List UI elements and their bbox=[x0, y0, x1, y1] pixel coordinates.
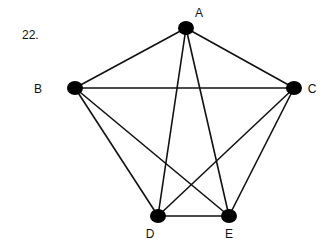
problem-number: 22. bbox=[22, 28, 39, 42]
edge-c-d bbox=[158, 88, 294, 216]
graph-nodes bbox=[67, 21, 302, 223]
graph-diagram: 22. ABCDE bbox=[0, 0, 328, 245]
node-e bbox=[221, 209, 237, 223]
edge-a-b bbox=[75, 28, 186, 88]
node-label-e: E bbox=[225, 227, 233, 241]
node-b bbox=[67, 81, 83, 95]
edge-a-c bbox=[186, 28, 294, 88]
node-label-b: B bbox=[34, 82, 42, 96]
node-c bbox=[286, 81, 302, 95]
edge-a-e bbox=[186, 28, 229, 216]
node-label-a: A bbox=[195, 6, 203, 20]
edge-b-e bbox=[75, 88, 229, 216]
node-a bbox=[178, 21, 194, 35]
node-label-d: D bbox=[146, 227, 155, 241]
edge-c-e bbox=[229, 88, 294, 216]
graph-node-labels: ABCDE bbox=[34, 6, 317, 241]
graph-edges bbox=[75, 28, 294, 216]
edge-a-d bbox=[158, 28, 186, 216]
node-label-c: C bbox=[308, 82, 317, 96]
node-d bbox=[150, 209, 166, 223]
edge-b-d bbox=[75, 88, 158, 216]
